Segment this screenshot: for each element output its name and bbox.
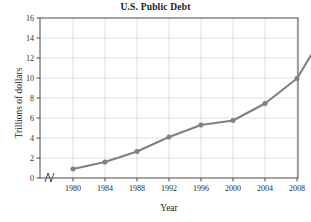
x-tick-label: 1980 (65, 184, 81, 193)
y-tick-label: 10 (16, 74, 34, 83)
x-tick-label: 2008 (289, 184, 305, 193)
x-tick-label: 2000 (225, 184, 241, 193)
axis-break-icon (45, 173, 54, 182)
chart-figure: U.S. Public Debt Trillions of dollars Ye… (0, 0, 311, 222)
x-tick-label: 1984 (97, 184, 113, 193)
y-tick-label: 8 (16, 94, 34, 103)
y-tick-label: 4 (16, 134, 34, 143)
y-tick-label: 12 (16, 54, 34, 63)
x-axis-ticks (73, 178, 311, 182)
x-tick-label: 1988 (129, 184, 145, 193)
y-tick-label: 16 (16, 14, 34, 23)
y-tick-label: 14 (16, 34, 34, 43)
data-series-line (73, 26, 311, 170)
y-axis-ticks (37, 18, 41, 178)
x-tick-label: 2004 (257, 184, 273, 193)
y-tick-label: 2 (16, 154, 34, 163)
x-tick-label: 1992 (161, 184, 177, 193)
x-tick-label: 1996 (193, 184, 209, 193)
y-tick-label: 6 (16, 114, 34, 123)
data-point-markers (71, 23, 311, 171)
y-tick-label: 0 (16, 174, 34, 183)
